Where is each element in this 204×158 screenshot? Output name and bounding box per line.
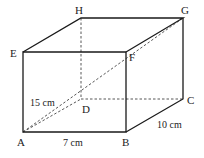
prism-diagram: H G E F D C A B 15 cm 7 cm 10 cm (0, 0, 204, 158)
diagonal-AG (23, 18, 183, 132)
vertex-label-H: H (75, 4, 83, 16)
vertex-label-C: C (187, 94, 194, 106)
dimension-width: 10 cm (157, 119, 182, 130)
vertex-label-A: A (17, 136, 25, 148)
face-front (23, 52, 126, 132)
vertex-label-B: B (122, 136, 129, 148)
vertex-label-D: D (82, 103, 90, 115)
dimension-length: 7 cm (63, 137, 83, 148)
vertex-label-G: G (181, 4, 189, 16)
vertex-label-F: F (129, 51, 135, 63)
dimension-height: 15 cm (30, 97, 55, 108)
vertex-label-E: E (10, 47, 17, 59)
